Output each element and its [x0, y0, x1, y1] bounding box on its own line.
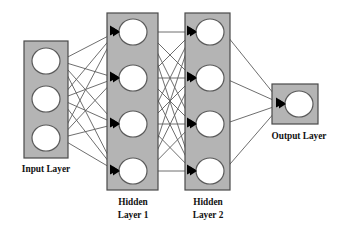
network-canvas: Input Layer Hidden Layer 1 Hidden Layer …: [0, 0, 348, 234]
output-layer-label: Output Layer: [271, 131, 326, 141]
neural-network-diagram: Input Layer Hidden Layer 1 Hidden Layer …: [0, 0, 348, 234]
node-hidden1-4: [119, 158, 147, 184]
node-input-1: [32, 48, 60, 74]
input-layer-label: Input Layer: [22, 164, 70, 174]
node-hidden2-2: [196, 65, 224, 91]
hidden-layer-1-label-line1: Hidden: [118, 197, 148, 207]
node-hidden2-4: [196, 158, 224, 184]
node-hidden2-3: [196, 111, 224, 137]
hidden-layer-2-label-line1: Hidden: [193, 197, 223, 207]
node-input-2: [32, 86, 60, 112]
hidden-layer-2-label-line2: Layer 2: [193, 210, 224, 220]
node-hidden1-3: [119, 111, 147, 137]
connections-group: [60, 32, 282, 171]
node-input-3: [32, 125, 60, 151]
node-hidden1-1: [119, 19, 147, 45]
node-hidden2-1: [196, 19, 224, 45]
node-hidden1-2: [119, 65, 147, 91]
hidden-layer-1-label-line2: Layer 1: [118, 210, 149, 220]
node-output-1: [285, 91, 313, 117]
nodes-group: [32, 19, 313, 184]
